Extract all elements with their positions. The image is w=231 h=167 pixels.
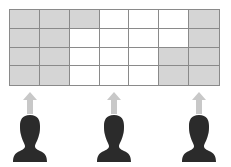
grid-cell-shaded xyxy=(10,48,40,67)
grid-cell-shaded xyxy=(10,66,40,85)
grid-cell-shaded xyxy=(10,29,40,48)
grid-cell-shaded xyxy=(40,10,70,29)
person-2 xyxy=(94,90,134,164)
grid-cell-shaded xyxy=(189,29,219,48)
grid-cell-shaded xyxy=(40,29,70,48)
grid-cell-empty xyxy=(100,48,130,67)
grid-cell-shaded xyxy=(40,66,70,85)
grid-cell-shaded xyxy=(159,66,189,85)
person-3 xyxy=(179,90,219,164)
grid-cell-empty xyxy=(129,29,159,48)
grid-cell-empty xyxy=(100,29,130,48)
arrow-up-icon xyxy=(192,92,206,114)
grid-cell-empty xyxy=(129,66,159,85)
grid-cell-empty xyxy=(100,66,130,85)
person-1 xyxy=(10,90,50,164)
person-silhouette-icon xyxy=(12,114,48,162)
grid-cell-empty xyxy=(129,10,159,29)
person-silhouette-icon xyxy=(96,114,132,162)
grid-cell-shaded xyxy=(10,10,40,29)
grid-cell-shaded xyxy=(70,10,100,29)
arrow-up-icon xyxy=(107,92,121,114)
person-silhouette-icon xyxy=(181,114,217,162)
grid-cell-shaded xyxy=(189,10,219,29)
grid-cell-shaded xyxy=(189,66,219,85)
grid-cell-empty xyxy=(129,48,159,67)
grid-cell-empty xyxy=(159,29,189,48)
grid-cell-empty xyxy=(70,29,100,48)
grid-cell-shaded xyxy=(159,48,189,67)
arrow-up-icon xyxy=(23,92,37,114)
grid-cell-empty xyxy=(100,10,130,29)
grid-cell-shaded xyxy=(189,48,219,67)
grid-cell-empty xyxy=(70,48,100,67)
grid-cell-shaded xyxy=(40,48,70,67)
grid-cell-empty xyxy=(159,10,189,29)
grid-cell-empty xyxy=(70,66,100,85)
occupancy-grid xyxy=(9,9,220,86)
